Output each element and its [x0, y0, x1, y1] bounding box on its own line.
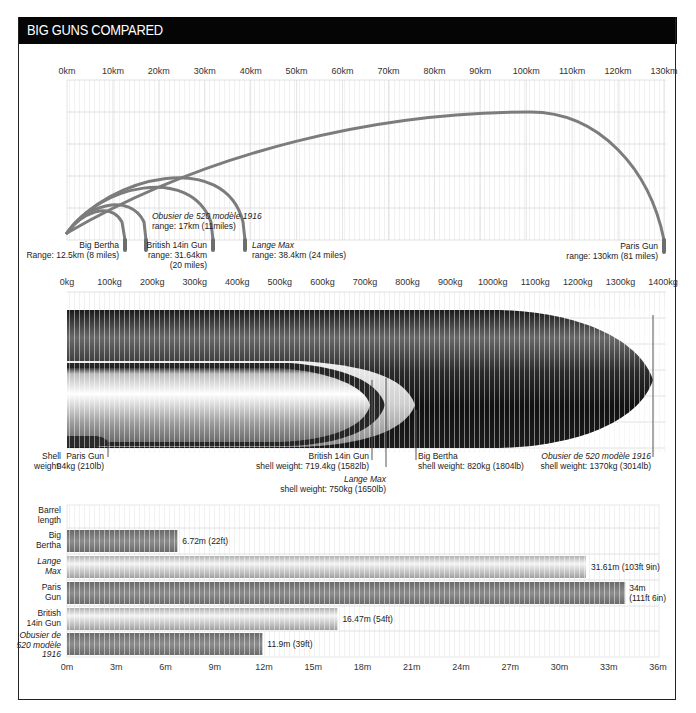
range-chart: 0km10km20km30km40km50km60km70km80km90km1… — [26, 66, 677, 270]
barrel-value: 31.61m (103ft 9in) — [591, 562, 660, 572]
label-paris-shell: Paris Gun — [66, 451, 104, 461]
shell-tick: 1000kg — [478, 277, 508, 287]
barrel-tick: 33m — [600, 662, 618, 672]
weight-big-bertha-shell: shell weight: 820kg (1804lb) — [418, 461, 524, 471]
barrel-row-label: 520 modèle — [17, 640, 62, 650]
label-big-bertha: Big Bertha — [79, 240, 119, 250]
label-lange-shell: Lange Max — [344, 474, 387, 484]
barrel-tick: 9m — [208, 662, 221, 672]
range-tick: 80km — [423, 66, 445, 76]
label-british: British 14in Gun — [147, 240, 208, 250]
shell-weight-chart: 0kg100kg200kg300kg400kg500kg600kg700kg80… — [33, 277, 678, 494]
shell-stripe-overlay — [67, 310, 666, 450]
barrel-tick: 27m — [501, 662, 519, 672]
range-tick: 30km — [194, 66, 216, 76]
barrel-row-label: Obusier de — [19, 630, 61, 640]
range-axis-ticks: 0km10km20km30km40km50km60km70km80km90km1… — [58, 66, 677, 76]
range-tick: 0km — [58, 66, 75, 76]
weight-british-shell: shell weight: 719.4kg (1582lb) — [256, 461, 369, 471]
shell-tick: 1400kg — [648, 277, 678, 287]
shell-tick: 1100kg — [521, 277, 550, 287]
barrel-tick: 18m — [354, 662, 372, 672]
shell-tick: 1300kg — [606, 277, 636, 287]
barrel-value: 16.47m (54ft) — [342, 614, 393, 624]
range-tick: 10km — [102, 66, 124, 76]
barrel-row-label: Max — [45, 566, 62, 576]
shell-tick: 600kg — [310, 277, 335, 287]
range-tick: 60km — [332, 66, 354, 76]
charts-canvas: 0km10km20km30km40km50km60km70km80km90km1… — [0, 0, 696, 713]
shell-tick: 700kg — [353, 277, 378, 287]
barrel-value-2: (111ft 6in) — [629, 593, 666, 603]
range-big-bertha: Range: 12.5km (8 miles) — [26, 250, 119, 260]
range-tick: 100km — [513, 66, 540, 76]
barrel-value: 6.72m (22ft) — [182, 536, 228, 546]
barrel-row-label: 1916 — [42, 649, 61, 659]
barrel-tick: 15m — [304, 662, 322, 672]
barrel-bar-stripes — [67, 582, 625, 604]
barrel-row-label: Lange — [37, 556, 61, 566]
range-obusier: range: 17km (11miles) — [152, 221, 236, 231]
weight-lange-shell: shell weight: 750kg (1650lb) — [280, 484, 386, 494]
barrel-header-1: Barrel — [38, 505, 61, 515]
barrel-row-label: Gun — [45, 592, 61, 602]
barrel-row-label: Big — [49, 530, 62, 540]
shell-tick: 100kg — [97, 277, 122, 287]
shell-tick: 0kg — [60, 277, 75, 287]
shell-tick: 200kg — [140, 277, 165, 287]
range-british-miles: (20 miles) — [170, 260, 207, 270]
label-lange: Lange Max — [252, 240, 295, 250]
barrel-bar-stripes — [67, 633, 262, 655]
marker-lange — [243, 238, 247, 252]
barrel-tick: 36m — [649, 662, 667, 672]
barrel-length-chart: Barrel length BigBertha6.72m (22ft)Lange… — [17, 505, 667, 672]
barrel-row: LangeMax31.61m (103ft 9in) — [37, 556, 660, 578]
shell-axis-label-1: Shell — [42, 451, 61, 461]
range-tick: 20km — [148, 66, 170, 76]
range-tick: 70km — [377, 66, 399, 76]
marker-british — [211, 238, 215, 252]
barrel-row: ParisGun34m(111ft 6in) — [42, 582, 667, 604]
shell-axis-ticks: 0kg100kg200kg300kg400kg500kg600kg700kg80… — [60, 277, 678, 287]
barrel-tick: 6m — [159, 662, 172, 672]
label-big-bertha-shell: Big Bertha — [418, 451, 458, 461]
barrel-axis-ticks: 0m3m6m9m12m15m18m21m24m27m30m33m36m — [61, 662, 667, 672]
barrel-tick: 0m — [61, 662, 74, 672]
barrel-row-label: British — [37, 608, 61, 618]
range-tick: 40km — [240, 66, 262, 76]
barrel-row-label: Paris — [42, 582, 61, 592]
marker-big-bertha — [123, 238, 127, 252]
barrel-tick: 3m — [110, 662, 123, 672]
barrel-row-label: Bertha — [36, 540, 61, 550]
barrel-tick: 24m — [452, 662, 470, 672]
label-paris: Paris Gun — [620, 241, 658, 251]
barrel-row-label: 14in Gun — [27, 618, 62, 628]
shell-tick: 500kg — [268, 277, 293, 287]
label-obusier: Obusier de 520 modèle 1916 — [152, 211, 262, 221]
range-tick: 90km — [469, 66, 491, 76]
label-british-shell: British 14in Gun — [309, 451, 370, 461]
range-tick: 110km — [559, 66, 585, 76]
shell-tick: 300kg — [182, 277, 207, 287]
barrel-bar-stripes — [67, 556, 586, 578]
range-british: range: 31.64km — [148, 250, 207, 260]
barrel-bar-stripes — [67, 608, 337, 630]
marker-paris — [662, 238, 666, 254]
range-tick: 50km — [286, 66, 308, 76]
barrel-tick: 12m — [255, 662, 273, 672]
range-lange: range: 38.4km (24 miles) — [252, 250, 346, 260]
shell-labels: Shell weight: Paris Gun 94kg (210lb) Bri… — [33, 451, 651, 494]
weight-paris-shell: 94kg (210lb) — [57, 461, 104, 471]
range-tick: 130km — [650, 66, 677, 76]
shell-tick: 1200kg — [563, 277, 593, 287]
range-paris: range: 130km (81 miles) — [566, 251, 658, 261]
barrel-value: 34m — [629, 583, 646, 593]
shell-tick: 900kg — [438, 277, 463, 287]
range-tick: 120km — [605, 66, 632, 76]
shell-tick: 800kg — [395, 277, 420, 287]
barrel-value: 11.9m (39ft) — [267, 639, 312, 649]
barrel-tick: 30m — [551, 662, 569, 672]
barrel-tick: 21m — [403, 662, 421, 672]
weight-obusier-shell: shell weight: 1370kg (3014lb) — [540, 461, 651, 471]
barrel-header-2: length — [38, 515, 61, 525]
